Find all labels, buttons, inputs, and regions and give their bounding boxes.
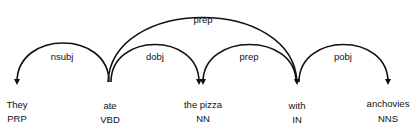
token-tag: PRP [7, 113, 27, 124]
arc-label-dobj: dobj [146, 51, 164, 62]
token-word: the pizza [184, 99, 222, 110]
token-word: ate [103, 100, 116, 111]
token-word: They [6, 99, 27, 110]
token-word: anchovies [367, 98, 410, 109]
token-tag: NN [196, 113, 210, 124]
token-tag: VBD [100, 114, 120, 125]
token-tag: IN [292, 114, 302, 125]
arc-label-prep-ate: prep [193, 14, 212, 25]
arc-label-pobj: pobj [334, 51, 352, 62]
arc-nsubj [17, 43, 109, 82]
arc-label-nsubj: nsubj [51, 51, 74, 62]
token-tag: NNS [378, 113, 398, 124]
arc-label-prep-pizza: prep [239, 51, 258, 62]
token-word: with [289, 100, 306, 111]
arc-prep-ate-with [108, 18, 297, 83]
